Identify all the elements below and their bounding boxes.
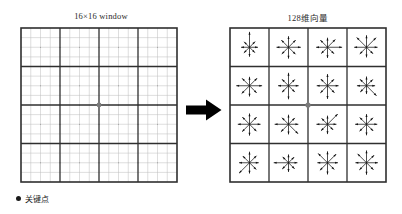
descriptor-grid-graphic bbox=[228, 26, 388, 184]
legend-label: 关键点 bbox=[25, 193, 49, 204]
sampling-window-graphic bbox=[19, 26, 179, 184]
sampling-window-panel bbox=[19, 26, 179, 184]
descriptor-panel-title: 128维向量 bbox=[222, 11, 394, 23]
sift-descriptor-figure: 16×16 window 128维向量 关键点 bbox=[0, 0, 402, 214]
descriptor-grid-panel bbox=[228, 26, 388, 184]
legend: 关键点 bbox=[16, 193, 49, 204]
transform-arrow bbox=[186, 99, 222, 121]
window-panel-title: 16×16 window bbox=[18, 11, 184, 21]
keypoint-dot-icon bbox=[16, 196, 21, 201]
right-arrow-icon bbox=[186, 99, 222, 121]
